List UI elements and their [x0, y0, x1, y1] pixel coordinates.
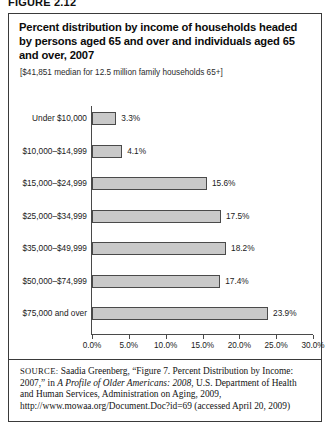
bar-value-label: 17.4% [225, 276, 249, 286]
x-tick-mark [276, 335, 277, 339]
bar [92, 112, 116, 125]
x-tick-mark [239, 335, 240, 339]
bar [92, 307, 268, 320]
x-tick-mark [313, 335, 314, 339]
bar-category-label: $10,000–$14,999 [0, 146, 87, 156]
chart-title: Percent distribution by income of househ… [19, 20, 309, 63]
bar [92, 145, 122, 158]
chart-subtitle: [$41,851 median for 12.5 million family … [20, 67, 310, 78]
figure-container: FIGURE 2.12 Percent distribution by inco… [0, 0, 334, 426]
source-prefix: SOURCE: [20, 366, 58, 376]
bar-value-label: 17.5% [226, 211, 250, 221]
x-tick-mark [166, 335, 167, 339]
bar-value-label: 15.6% [212, 178, 236, 188]
x-tick-label: 20.0% [228, 341, 251, 350]
bar-value-label: 4.1% [127, 146, 146, 156]
bar-series: Under $10,0003.3%$10,000–$14,9994.1%$15,… [9, 106, 323, 334]
bar-row: Under $10,0003.3% [9, 106, 323, 139]
x-tick-label: 25.0% [265, 341, 288, 350]
figure-number: FIGURE 2.12 [8, 0, 76, 8]
bar-value-label: 23.9% [273, 308, 297, 318]
bar [92, 242, 226, 255]
x-tick-label: 0.0% [83, 341, 102, 350]
figure-frame: Percent distribution by income of househ… [8, 13, 322, 422]
x-tick-label: 10.0% [154, 341, 177, 350]
x-axis-ticks: 0.0%5.0%10.0%15.0%20.0%25.0%30.0% [9, 335, 323, 357]
x-tick-label: 30.0% [301, 341, 324, 350]
bar-category-label: $75,000 and over [0, 308, 87, 318]
plot-area: Under $10,0003.3%$10,000–$14,9994.1%$15,… [9, 102, 323, 352]
bar [92, 210, 221, 223]
bar [92, 177, 207, 190]
bar-category-label: Under $10,000 [0, 113, 87, 123]
bar-category-label: $15,000–$24,999 [0, 178, 87, 188]
bar [92, 275, 220, 288]
x-tick-mark [129, 335, 130, 339]
bar-value-label: 3.3% [121, 113, 140, 123]
bar-row: $75,000 and over23.9% [9, 301, 323, 334]
source-publication-title: A Profile of Older Americans: 2008 [57, 378, 191, 388]
bar-row: $50,000–$74,99917.4% [9, 269, 323, 302]
x-tick-label: 5.0% [119, 341, 138, 350]
bar-row: $25,000–$34,99917.5% [9, 204, 323, 237]
source-divider [9, 359, 321, 360]
bar-category-label: $35,000–$49,999 [0, 243, 87, 253]
x-tick-mark [92, 335, 93, 339]
bar-row: $35,000–$49,99918.2% [9, 236, 323, 269]
bar-value-label: 18.2% [231, 243, 255, 253]
bar-category-label: $25,000–$34,999 [0, 211, 87, 221]
source-note: SOURCE: Saadia Greenberg, “Figure 7. Per… [20, 366, 308, 412]
x-tick-mark [203, 335, 204, 339]
bar-row: $10,000–$14,9994.1% [9, 139, 323, 172]
bar-row: $15,000–$24,99915.6% [9, 171, 323, 204]
x-tick-label: 15.0% [191, 341, 214, 350]
bar-category-label: $50,000–$74,999 [0, 276, 87, 286]
